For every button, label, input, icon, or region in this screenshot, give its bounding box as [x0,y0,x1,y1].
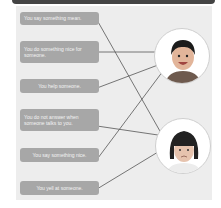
match-line-3 [97,65,158,88]
match-line-1 [97,20,165,140]
statement-2[interactable]: You do something nice for someone. [20,41,99,63]
statement-4[interactable]: You do not answer when someone talks to … [20,109,99,131]
girl-face-icon [156,119,211,174]
boy-face-icon [155,29,210,84]
sad-girl-photo[interactable] [155,118,211,174]
match-line-6 [97,152,158,189]
statement-3[interactable]: You help someone. [20,79,99,93]
statement-5[interactable]: You say something nice. [20,148,99,162]
statement-1[interactable]: You say something mean. [20,12,99,25]
statement-6[interactable]: You yell at someone. [20,181,99,195]
match-line-4 [97,126,158,135]
happy-boy-photo[interactable] [154,28,210,84]
